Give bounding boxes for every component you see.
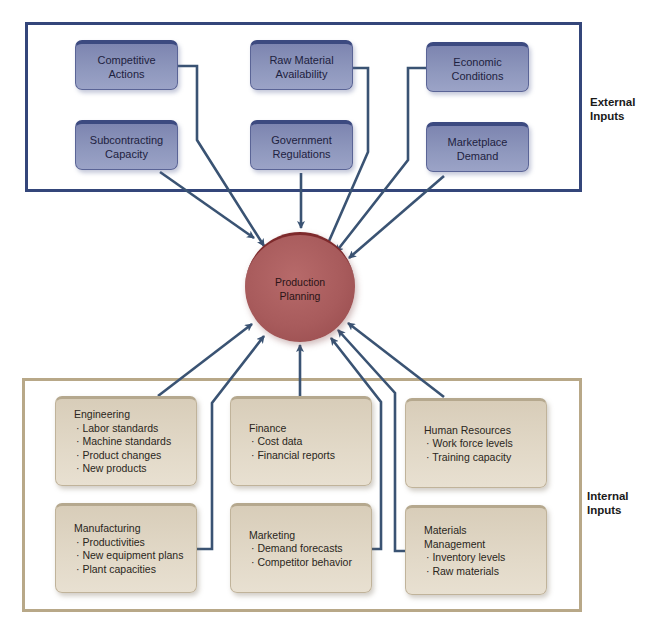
box-item: · Machine standards: [74, 435, 186, 449]
box-item: · Plant capacities: [74, 563, 186, 577]
box-text: Marketplace: [448, 136, 508, 148]
box-text: Competitive: [97, 54, 155, 66]
production-planning-node: Production Planning: [245, 232, 355, 342]
arrow-human-resources: [348, 323, 444, 397]
box-item: · New products: [74, 462, 186, 476]
center-label-line1: Production: [275, 275, 325, 289]
external-box-marketplace-demand: MarketplaceDemand: [426, 122, 529, 172]
internal-box-human-resources: Human Resources · Work force levels · Tr…: [405, 398, 547, 488]
box-text: Demand: [457, 150, 499, 162]
box-text: Capacity: [105, 148, 148, 160]
external-box-government-regulations: GovernmentRegulations: [250, 120, 353, 170]
box-title: Materials: [424, 524, 536, 538]
box-item: · Training capacity: [424, 451, 536, 465]
box-text: Government: [271, 134, 332, 146]
box-title: Manufacturing: [74, 522, 186, 536]
box-text: Raw Material: [269, 54, 333, 66]
internal-box-finance: Finance · Cost data · Financial reports: [230, 396, 372, 486]
box-item: · Competitor behavior: [249, 556, 361, 570]
box-item: · Work force levels: [424, 437, 536, 451]
box-title: Marketing: [249, 529, 361, 543]
center-label-line2: Planning: [280, 289, 321, 303]
box-title: Finance: [249, 422, 361, 436]
external-box-subcontracting-capacity: SubcontractingCapacity: [75, 120, 178, 170]
internal-box-marketing: Marketing · Demand forecasts · Competito…: [230, 503, 372, 593]
box-text: Actions: [108, 68, 144, 80]
box-item: · New equipment plans: [74, 549, 186, 563]
box-text: Conditions: [452, 70, 504, 82]
box-text: Subcontracting: [90, 134, 163, 146]
box-item: · Cost data: [249, 435, 361, 449]
arrow-engineering: [158, 324, 252, 396]
box-title: Engineering: [74, 408, 186, 422]
box-item: · Raw materials: [424, 565, 536, 579]
external-box-economic-conditions: EconomicConditions: [426, 42, 529, 92]
box-item: · Demand forecasts: [249, 542, 361, 556]
external-box-competitive-actions: CompetitiveActions: [75, 40, 178, 90]
internal-box-manufacturing: Manufacturing · Productivities · New equ…: [55, 503, 197, 593]
box-title: Management: [424, 538, 536, 552]
box-text: Regulations: [272, 148, 330, 160]
box-item: · Product changes: [74, 449, 186, 463]
internal-box-engineering: Engineering · Labor standards · Machine …: [55, 396, 197, 486]
box-item: · Inventory levels: [424, 551, 536, 565]
box-text: Availability: [276, 68, 328, 80]
arrow-subcontracting-capacity: [160, 172, 254, 238]
box-item: · Financial reports: [249, 449, 361, 463]
box-text: Economic: [453, 56, 501, 68]
box-item: · Labor standards: [74, 422, 186, 436]
external-box-raw-material-availability: Raw MaterialAvailability: [250, 40, 353, 90]
internal-box-materials-management: Materials Management · Inventory levels …: [405, 505, 547, 595]
box-title: Human Resources: [424, 424, 536, 438]
box-item: · Productivities: [74, 536, 186, 550]
